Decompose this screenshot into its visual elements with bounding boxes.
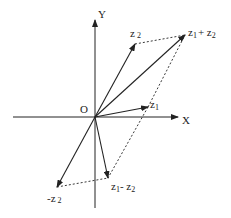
dashed-z2-to-sum [135, 35, 185, 44]
complex-vector-diagram: Y X O z1 z2 z1+ z2 -z2 z1- z2 [0, 0, 231, 218]
vector-z1-minus-z2 [95, 117, 108, 178]
vector-z1-plus-z2 [95, 35, 185, 117]
origin-label: O [80, 103, 88, 115]
z1-minus-z2-label: z1- z2 [111, 180, 135, 194]
y-axis-label: Y [98, 8, 106, 20]
dashed-z1-to-sum [148, 35, 185, 107]
z1-label: z1 [150, 98, 159, 112]
dashed-z1-to-diff [108, 107, 148, 178]
z1-plus-z2-label: z1+ z2 [188, 26, 216, 40]
neg-z2-label: -z2 [47, 192, 62, 205]
z2-label: z2 [130, 27, 141, 40]
vector-z2 [95, 44, 135, 117]
vector-z1 [95, 107, 148, 117]
vector-neg-z2 [57, 117, 95, 187]
x-axis-label: X [182, 114, 190, 126]
dashed-negz2-to-diff [57, 178, 108, 187]
